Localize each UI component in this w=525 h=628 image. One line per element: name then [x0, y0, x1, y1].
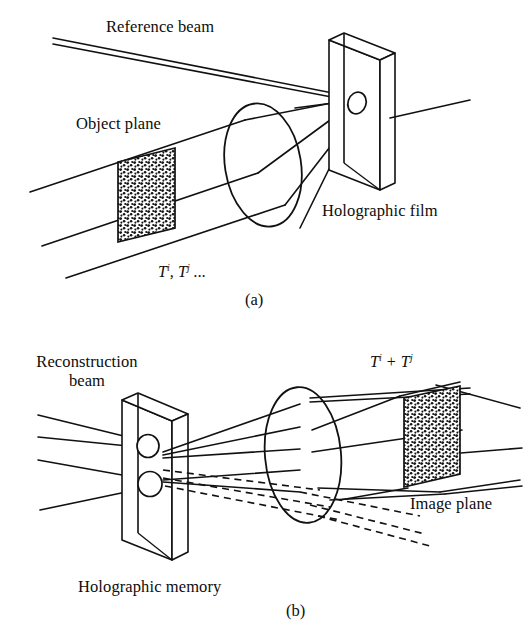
label-holographic-memory: Holographic memory — [78, 578, 221, 596]
sum-superscript-j: j — [410, 352, 413, 363]
sum-symbol-T1: T — [370, 353, 379, 370]
label-object-plane: Object plane — [76, 115, 161, 133]
caption-panel-b: (b) — [286, 601, 305, 621]
lens-ellipse-b — [259, 384, 347, 526]
transmitted-ray-a — [390, 100, 470, 118]
panel-a-graphics — [30, 33, 470, 278]
sum-operator: + T — [382, 353, 410, 370]
label-transparency-symbols: Ti, Tj ... — [158, 262, 206, 281]
panel-b-graphics — [38, 382, 522, 560]
transparency-ellipsis: ... — [190, 263, 206, 280]
spurious-order-dashed-rays — [163, 470, 430, 546]
transparency-separator: , T — [170, 263, 187, 280]
caption-panel-a: (a) — [245, 290, 263, 310]
reconstruction-beam-line1: Reconstruction — [36, 352, 137, 371]
label-reference-beam: Reference beam — [106, 18, 214, 36]
memory-spot-upper — [137, 435, 159, 458]
label-holographic-film: Holographic film — [322, 202, 438, 220]
label-image-plane: Image plane — [410, 495, 492, 513]
reconstruction-beam-line2: beam — [69, 371, 105, 390]
object-plane-transparency — [118, 148, 175, 242]
transparency-symbol-T1: T — [158, 263, 167, 280]
image-plane-transparency — [404, 386, 460, 487]
label-reconstruction-beam: Reconstruction beam — [12, 352, 162, 391]
figure-root: Reference beam Object plane Holographic … — [0, 0, 525, 628]
memory-spot-lower — [138, 472, 162, 497]
label-sum-symbols: Ti + Tj — [370, 352, 413, 371]
reference-beam-rays — [53, 38, 358, 102]
diagram-canvas — [0, 0, 525, 628]
